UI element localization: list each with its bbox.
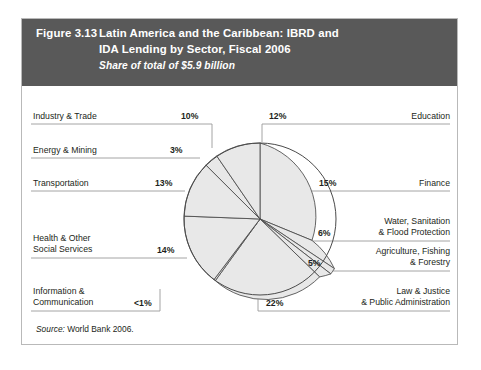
label-agriculture-line1: Agriculture, Fishing bbox=[376, 246, 450, 257]
figure-title-text-1: Latin America and the Caribbean: IBRD an… bbox=[99, 26, 447, 42]
label-agriculture-line2: & Forestry bbox=[376, 257, 450, 268]
value-transportation: 13% bbox=[155, 178, 172, 189]
chart-body: Industry & Trade Energy & Mining Transpo… bbox=[22, 86, 459, 346]
value-finance: 15% bbox=[319, 178, 336, 189]
value-health-other-social-services: 14% bbox=[157, 245, 174, 256]
label-water-sanitation-flood-protection: Water, Sanitation & Flood Protection bbox=[379, 216, 450, 238]
value-information-communication: <1% bbox=[134, 298, 152, 309]
label-water-line1: Water, Sanitation bbox=[379, 216, 450, 227]
value-water-sanitation-flood-protection: 6% bbox=[318, 228, 331, 239]
label-industry-trade-line1: Industry & Trade bbox=[33, 111, 97, 122]
label-agriculture-fishing-forestry: Agriculture, Fishing & Forestry bbox=[376, 246, 450, 268]
label-health-line2: Social Services bbox=[33, 244, 92, 255]
label-law-line2: & Public Administration bbox=[361, 297, 450, 308]
figure-title-line-2: IDA Lending by Sector, Fiscal 2006 bbox=[36, 42, 447, 58]
source-label: Source: bbox=[36, 324, 65, 334]
label-finance: Finance bbox=[419, 178, 450, 189]
value-education: 12% bbox=[269, 111, 286, 122]
label-info-line1: Information & bbox=[33, 286, 93, 297]
value-energy-mining: 3% bbox=[170, 145, 183, 156]
label-transportation: Transportation bbox=[33, 178, 89, 189]
label-health-line1: Health & Other bbox=[33, 233, 92, 244]
label-health-other-social-services: Health & Other Social Services bbox=[33, 233, 92, 255]
label-info-line2: Communication bbox=[33, 297, 93, 308]
label-energy-mining: Energy & Mining bbox=[33, 145, 97, 156]
label-law-line1: Law & Justice bbox=[361, 286, 450, 297]
label-transportation-line1: Transportation bbox=[33, 178, 89, 189]
value-industry-trade: 10% bbox=[181, 111, 198, 122]
label-law-justice-public-administration: Law & Justice & Public Administration bbox=[361, 286, 450, 308]
figure-header: Figure 3.13 Latin America and the Caribb… bbox=[22, 19, 457, 86]
figure-number: Figure 3.13 bbox=[36, 26, 99, 42]
value-agriculture-fishing-forestry: 5% bbox=[308, 258, 321, 269]
label-education-line1: Education bbox=[411, 111, 450, 122]
figure-container: Figure 3.13 Latin America and the Caribb… bbox=[21, 18, 458, 345]
pie-slices bbox=[184, 143, 334, 300]
label-finance-line1: Finance bbox=[419, 178, 450, 189]
label-information-communication: Information & Communication bbox=[33, 286, 93, 308]
label-industry-trade: Industry & Trade bbox=[33, 111, 97, 122]
value-law-justice-public-administration: 22% bbox=[266, 298, 283, 309]
label-education: Education bbox=[411, 111, 450, 122]
source-text: World Bank 2006. bbox=[67, 324, 133, 334]
label-water-line2: & Flood Protection bbox=[379, 227, 450, 238]
figure-subtitle: Share of total of $5.9 billion bbox=[99, 57, 447, 73]
figure-title-line-1: Figure 3.13 Latin America and the Caribb… bbox=[36, 26, 447, 42]
label-energy-mining-line1: Energy & Mining bbox=[33, 145, 97, 156]
source-note: Source: World Bank 2006. bbox=[36, 324, 134, 334]
figure-title-text-2: IDA Lending by Sector, Fiscal 2006 bbox=[99, 42, 447, 58]
